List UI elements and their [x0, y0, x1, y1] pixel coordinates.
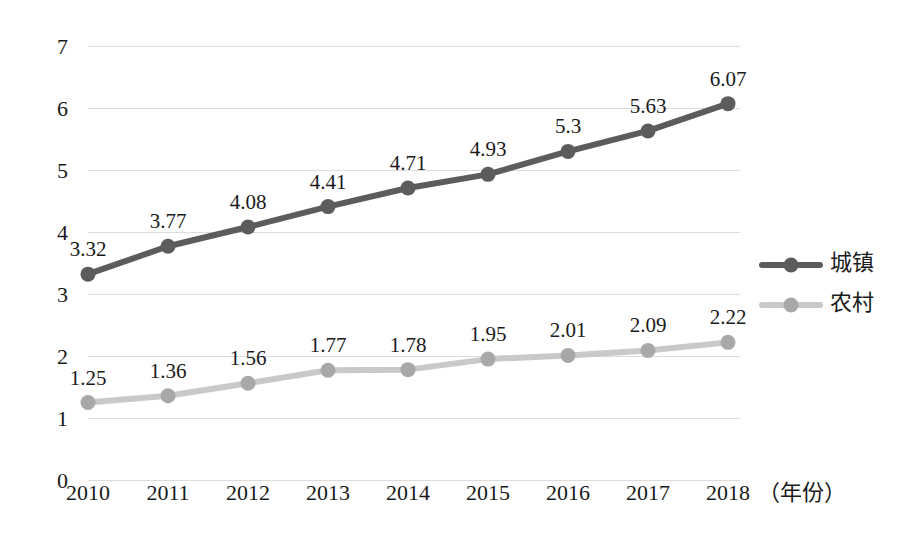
data-point-label: 2.09: [630, 313, 667, 337]
x-axis-tick-labels: 201020112012201320142015201620172018: [66, 480, 750, 505]
data-point-marker: [481, 352, 496, 367]
y-axis-tick-label: 4: [57, 220, 68, 245]
data-point-label: 6.07: [710, 67, 747, 91]
y-axis-tick-label: 1: [57, 406, 68, 431]
y-axis-tick-label: 6: [57, 96, 68, 121]
data-point-label: 1.56: [230, 346, 267, 370]
data-point-marker: [721, 96, 736, 111]
x-axis-tick-label: 2012: [226, 480, 270, 505]
data-point-label: 1.95: [470, 322, 507, 346]
data-point-marker: [81, 267, 96, 282]
y-axis-tick-label: 2: [57, 344, 68, 369]
x-axis-tick-label: 2014: [386, 480, 430, 505]
line-chart: 01234567 2010201120122013201420152016201…: [0, 0, 902, 553]
data-point-marker: [721, 335, 736, 350]
data-point-marker: [321, 363, 336, 378]
data-point-label: 1.77: [310, 333, 347, 357]
chart-container: 01234567 2010201120122013201420152016201…: [0, 0, 902, 553]
y-axis-tick-label: 5: [57, 158, 68, 183]
data-point-marker: [321, 199, 336, 214]
data-point-marker: [241, 220, 256, 235]
data-point-marker: [81, 395, 96, 410]
data-point-label: 4.08: [230, 190, 267, 214]
data-point-marker: [641, 343, 656, 358]
data-point-marker: [481, 167, 496, 182]
legend-item-label: 城镇: [830, 250, 874, 275]
data-point-label: 4.93: [470, 137, 507, 161]
x-axis-tick-label: 2016: [546, 480, 590, 505]
x-axis-tick-label: 2015: [466, 480, 510, 505]
data-point-label: 1.36: [150, 359, 187, 383]
legend-item-label: 农村: [830, 290, 874, 315]
x-axis-tick-label: 2013: [306, 480, 350, 505]
data-point-marker: [561, 144, 576, 159]
data-point-marker: [401, 180, 416, 195]
data-point-label: 1.25: [70, 366, 107, 390]
data-point-label: 2.22: [710, 305, 747, 329]
data-point-marker: [401, 362, 416, 377]
data-point-label: 4.71: [390, 151, 427, 175]
data-point-label: 4.41: [310, 170, 347, 194]
data-point-label: 3.77: [150, 209, 187, 233]
data-point-label: 2.01: [550, 318, 587, 342]
x-axis-tick-label: 2011: [146, 480, 189, 505]
x-axis-tick-label: 2018: [706, 480, 750, 505]
data-point-marker: [161, 239, 176, 254]
data-point-marker: [241, 376, 256, 391]
data-point-marker: [561, 348, 576, 363]
legend-marker-swatch: [784, 298, 799, 313]
chart-background: [0, 0, 902, 553]
data-point-marker: [161, 388, 176, 403]
x-axis-tick-label: 2010: [66, 480, 110, 505]
x-axis-tick-label: 2017: [626, 480, 670, 505]
legend-marker-swatch: [784, 258, 799, 273]
data-point-label: 3.32: [70, 237, 107, 261]
data-point-label: 5.63: [630, 94, 667, 118]
x-axis-title: （年份）: [758, 480, 846, 505]
data-point-label: 1.78: [390, 333, 427, 357]
y-axis-tick-label: 3: [57, 282, 68, 307]
y-axis-tick-label: 7: [57, 34, 68, 59]
data-point-marker: [641, 123, 656, 138]
data-point-label: 5.3: [555, 114, 581, 138]
